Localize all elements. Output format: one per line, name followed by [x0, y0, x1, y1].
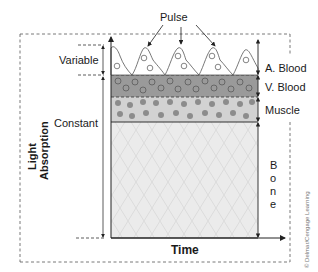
left-brackets [76, 45, 104, 238]
bone-letter-b: B [270, 160, 277, 171]
pulse-label: Pulse [160, 12, 188, 23]
y-axis-label-line1: Light [27, 143, 38, 170]
bone-letter-o: o [270, 173, 276, 184]
y-axis-label-line2: Absorption [39, 121, 50, 180]
layer-label-venous-blood: V. Blood [265, 82, 306, 93]
copyright-notice: © Delmar/Cengage Learning [304, 192, 310, 268]
venous-blood-layer [111, 75, 258, 97]
constant-label: Constant [54, 118, 98, 129]
layer-label-muscle: Muscle [265, 105, 300, 116]
pulse-arrows [148, 25, 215, 46]
bone-layer [111, 122, 258, 238]
variable-label: Variable [59, 55, 99, 66]
bone-letter-n: n [270, 186, 276, 197]
x-axis-label: Time [171, 244, 199, 256]
layer-label-arterial-blood: A. Blood [265, 63, 307, 74]
light-absorption-diagram: Pulse Variable Constant Light Absorption… [0, 0, 318, 272]
pulse-waveform [111, 47, 258, 75]
bone-letter-e: e [270, 199, 276, 210]
